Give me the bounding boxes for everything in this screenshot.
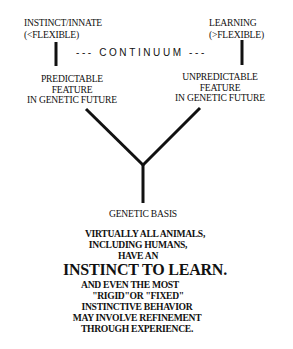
statement-line2: INCLUDING HUMANS, <box>40 240 236 250</box>
statement-line3: HAVE AN <box>40 251 236 261</box>
genetic-basis-label: GENETIC BASIS <box>93 209 193 219</box>
learning-label: LEARNING (>FLEXIBLE) <box>209 18 264 39</box>
unpredictable-line3: IN GENETIC FUTURE <box>164 93 276 103</box>
predictable-feature-label: PREDICTABLE FEATURE IN GENETIC FUTURE <box>16 74 128 105</box>
statement-line7: INSTINCTIVE BEHAVIOR <box>40 302 234 312</box>
statement-headline: INSTINCT TO LEARN. <box>40 262 250 278</box>
learning-label-line1: LEARNING <box>209 18 264 28</box>
unpredictable-feature-label: UNPREDICTABLE FEATURE IN GENETIC FUTURE <box>164 72 276 103</box>
statement-line8: MAY INVOLVE REFINEMENT <box>40 313 234 323</box>
predictable-line1: PREDICTABLE <box>16 74 128 84</box>
y-right-arm <box>143 108 200 165</box>
y-left-arm <box>86 109 143 165</box>
statement-line5: AND EVEN THE MOST <box>40 280 220 290</box>
predictable-line3: IN GENETIC FUTURE <box>16 95 128 105</box>
statement-line6: "RIGID"OR "FIXED" <box>40 291 236 301</box>
instinct-label: INSTINCT/INNATE (<FLEXIBLE) <box>24 18 102 39</box>
learning-label-line2: (>FLEXIBLE) <box>209 30 264 40</box>
instinct-label-line2: (<FLEXIBLE) <box>24 30 102 40</box>
predictable-line2: FEATURE <box>16 85 128 95</box>
instinct-label-line1: INSTINCT/INNATE <box>24 18 102 28</box>
unpredictable-line1: UNPREDICTABLE <box>164 72 276 82</box>
statement-line1: VIRTUALLY ALL ANIMALS, <box>40 229 250 239</box>
continuum-label: --- CONTINUUM --- <box>76 48 207 58</box>
unpredictable-line2: FEATURE <box>164 83 276 93</box>
statement-line9: THROUGH EXPERIENCE. <box>40 324 234 334</box>
